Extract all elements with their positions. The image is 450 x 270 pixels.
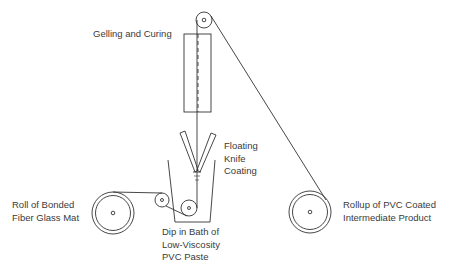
label-knife-line3: Coating bbox=[224, 165, 258, 178]
label-rollup: Rollup of PVC Coated Intermediate Produc… bbox=[343, 199, 436, 224]
label-knife-line2: Knife bbox=[224, 153, 258, 166]
label-bath-line1: Dip in Bath of bbox=[162, 226, 220, 239]
label-roll-in-line2: Fiber Glass Mat bbox=[12, 212, 79, 225]
label-roll-in: Roll of Bonded Fiber Glass Mat bbox=[12, 199, 79, 224]
dip-bath bbox=[168, 160, 215, 222]
rollup-roll bbox=[289, 191, 331, 233]
process-diagram: Gelling and Curing Floating Knife Coatin… bbox=[0, 0, 450, 270]
label-bath: Dip in Bath of Low-Viscosity PVC Paste bbox=[162, 226, 220, 264]
floating-knife bbox=[180, 131, 216, 180]
guide-roller bbox=[155, 193, 169, 207]
label-gelling: Gelling and Curing bbox=[93, 28, 172, 41]
label-bath-line2: Low-Viscosity bbox=[162, 239, 220, 252]
label-rollup-line1: Rollup of PVC Coated bbox=[343, 199, 436, 212]
bath-roller bbox=[181, 200, 197, 216]
label-knife-line1: Floating bbox=[224, 140, 258, 153]
label-bath-line3: PVC Paste bbox=[162, 251, 220, 264]
supply-roll bbox=[92, 192, 134, 234]
gelling-oven bbox=[184, 34, 211, 112]
label-rollup-line2: Intermediate Product bbox=[343, 212, 436, 225]
diagram-graphics bbox=[0, 0, 450, 270]
label-knife: Floating Knife Coating bbox=[224, 140, 258, 178]
top-roller bbox=[196, 12, 212, 28]
label-roll-in-line1: Roll of Bonded bbox=[12, 199, 79, 212]
